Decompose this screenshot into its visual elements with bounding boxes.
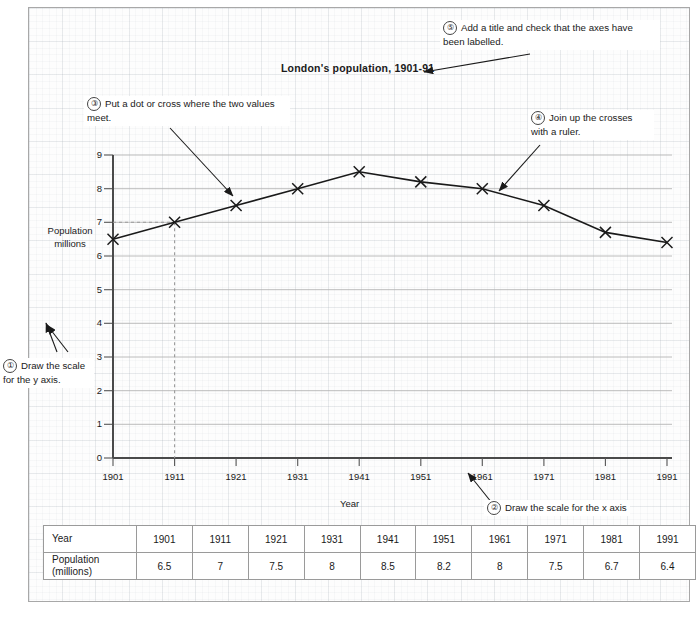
table-cell-pop-7: 7.5: [528, 553, 584, 580]
x-tick-label-1901: 1901: [88, 471, 138, 482]
table-cell-year-0: 1901: [136, 526, 192, 553]
y-axis-label-line2: millions: [36, 237, 104, 250]
table-cell-pop-5: 8.2: [416, 553, 472, 580]
callout-3-number: ③: [87, 97, 101, 111]
y-tick-label-8: 8: [82, 183, 102, 194]
table-cell-pop-8: 6.7: [584, 553, 640, 580]
table-row-population: Population (millions) 6.5 7 7.5 8 8.5 8.…: [44, 553, 696, 580]
callout-1-number: ①: [3, 359, 17, 373]
chart-title: London's population, 1901-91: [281, 62, 434, 74]
y-axis-label: Population millions: [36, 224, 104, 250]
y-tick-label-0: 0: [82, 452, 102, 463]
table-rowhead-year: Year: [44, 526, 137, 553]
x-tick-label-1961: 1961: [457, 471, 507, 482]
callout-5-text: Add a title and check that the axes have…: [443, 22, 633, 47]
table-row-years: Year 1901 1911 1921 1931 1941 1951 1961 …: [44, 526, 696, 553]
table-cell-year-9: 1991: [640, 526, 696, 553]
callout-5-number: ⑤: [443, 21, 457, 35]
table-cell-pop-3: 8: [304, 553, 360, 580]
x-tick-label-1931: 1931: [273, 471, 323, 482]
callout-4-text: Join up the crosses with a ruler.: [531, 112, 632, 137]
table-cell-year-2: 1921: [248, 526, 304, 553]
y-tick-label-5: 5: [82, 284, 102, 295]
table-cell-year-8: 1981: [584, 526, 640, 553]
callout-4-number: ④: [531, 111, 545, 125]
callout-2-draw-x-scale: ②Draw the scale for the x axis: [484, 500, 630, 516]
y-tick-label-1: 1: [82, 418, 102, 429]
y-tick-label-9: 9: [82, 149, 102, 160]
table-cell-pop-0: 6.5: [136, 553, 192, 580]
callout-3-text: Put a dot or cross where the two values …: [87, 98, 275, 123]
worksheet-page: London's population, 1901-91 Population …: [0, 0, 696, 619]
x-tick-label-1951: 1951: [396, 471, 446, 482]
callout-5-add-title: ⑤Add a title and check that the axes hav…: [440, 20, 660, 50]
callout-2-text: Draw the scale for the x axis: [505, 502, 627, 513]
y-tick-label-7: 7: [82, 216, 102, 227]
table-cell-pop-2: 7.5: [248, 553, 304, 580]
table-cell-year-1: 1911: [192, 526, 248, 553]
table-rowhead-population: Population (millions): [44, 553, 137, 580]
table-cell-year-3: 1931: [304, 526, 360, 553]
x-axis-label: Year: [340, 498, 359, 509]
table-cell-pop-6: 8: [472, 553, 528, 580]
x-tick-label-1941: 1941: [334, 471, 384, 482]
data-table: Year 1901 1911 1921 1931 1941 1951 1961 …: [43, 525, 696, 580]
x-tick-label-1911: 1911: [150, 471, 200, 482]
callout-3-plot-points: ③Put a dot or cross where the two values…: [84, 96, 290, 126]
callout-2-number: ②: [487, 501, 501, 515]
x-tick-label-1981: 1981: [580, 471, 630, 482]
table-cell-pop-9: 6.4: [640, 553, 696, 580]
table-cell-year-7: 1971: [528, 526, 584, 553]
table-cell-pop-4: 8.5: [360, 553, 416, 580]
callout-4-join-crosses: ④Join up the crosses with a ruler.: [528, 110, 654, 140]
x-tick-label-1921: 1921: [211, 471, 261, 482]
table-cell-pop-1: 7: [192, 553, 248, 580]
table-cell-year-5: 1951: [416, 526, 472, 553]
y-tick-label-6: 6: [82, 250, 102, 261]
callout-1-draw-y-scale: ①Draw the scale for the y axis.: [0, 358, 94, 388]
y-tick-label-4: 4: [82, 317, 102, 328]
x-tick-label-1971: 1971: [519, 471, 569, 482]
table-rowhead-population-line2: (millions): [52, 566, 132, 578]
table-cell-year-4: 1941: [360, 526, 416, 553]
table-cell-year-6: 1961: [472, 526, 528, 553]
table-rowhead-population-line1: Population: [52, 554, 132, 566]
x-tick-label-1991: 1991: [642, 471, 692, 482]
